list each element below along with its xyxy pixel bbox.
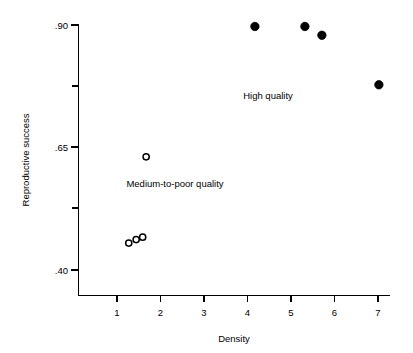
y-axis-title: Reproductive success	[20, 113, 31, 206]
scatter-plot-figure: .90 .65 .40 Reproductive success 1 2 3 4…	[0, 0, 413, 353]
x-tick-label-7: 7	[375, 307, 380, 318]
annotation-high-quality: High quality	[243, 90, 293, 101]
series-high-quality-points	[251, 22, 383, 89]
y-tick-label-90: .90	[55, 20, 68, 31]
x-tick-label-4: 4	[245, 307, 250, 318]
x-axis-title: Density	[218, 333, 250, 344]
y-tick-label-40: .40	[55, 265, 68, 276]
data-point	[133, 237, 139, 243]
x-tick-label-1: 1	[114, 307, 119, 318]
axis-spines	[79, 24, 391, 296]
data-point	[301, 22, 309, 30]
series-medium-to-poor-quality-points	[126, 154, 150, 246]
x-tick-label-3: 3	[201, 307, 206, 318]
x-tick-label-6: 6	[332, 307, 337, 318]
y-axis-ticks	[71, 25, 78, 270]
data-point	[140, 234, 146, 240]
data-point	[143, 154, 149, 160]
plot-canvas: .90 .65 .40 Reproductive success 1 2 3 4…	[0, 0, 413, 353]
annotation-medium-to-poor-quality: Medium-to-poor quality	[126, 178, 223, 189]
data-point	[375, 81, 383, 89]
data-point	[126, 240, 132, 246]
data-point	[318, 31, 326, 39]
y-tick-label-65: .65	[55, 142, 68, 153]
data-point	[251, 22, 259, 30]
x-tick-label-2: 2	[158, 307, 163, 318]
x-tick-label-5: 5	[288, 307, 293, 318]
